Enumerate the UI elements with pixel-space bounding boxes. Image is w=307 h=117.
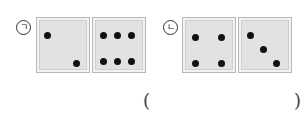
domino-b [182,17,292,73]
pip-dot [128,58,135,65]
pip-dot [247,32,254,39]
pip-dot [114,58,121,65]
pip-dot [273,60,280,67]
pip-dot [128,32,135,39]
tile-a-left [36,17,90,73]
tile-b-left [182,17,236,73]
tile-b-right [238,17,292,73]
pip-dot [100,58,107,65]
tile-a-right [92,17,146,73]
pip-dot [218,60,225,67]
pip-dot [100,32,107,39]
domino-a [36,17,146,73]
pip-dot [192,34,199,41]
open-paren: ( [143,90,150,111]
pip-dot [218,34,225,41]
label-b: ㄴ [163,20,178,35]
close-paren: ) [294,90,301,111]
pip-dot [44,32,51,39]
pip-dot [260,46,267,53]
pip-dot [192,60,199,67]
pip-dot [114,32,121,39]
pip-dot [73,60,80,67]
label-a: ㄱ [16,20,31,35]
